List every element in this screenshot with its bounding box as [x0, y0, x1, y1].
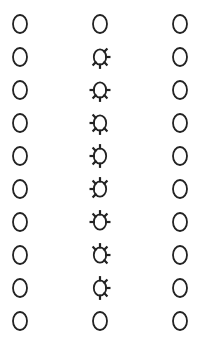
letter-o-icon — [8, 275, 32, 301]
letter-o-icon — [168, 242, 192, 268]
letter-o-icon — [8, 44, 32, 70]
letter-o-icon — [168, 110, 192, 136]
ticked-circle-icon — [88, 77, 112, 103]
letter-o-icon — [168, 143, 192, 169]
letter-o-icon — [168, 176, 192, 202]
letter-o-icon — [8, 110, 32, 136]
letter-o-icon — [8, 77, 32, 103]
letter-o-icon — [8, 209, 32, 235]
ticked-circle-icon — [88, 209, 112, 235]
letter-o-icon — [168, 77, 192, 103]
letter-o-icon — [168, 275, 192, 301]
letter-o-icon — [168, 11, 192, 37]
ticked-circle-icon — [88, 110, 112, 136]
letter-o-icon — [168, 209, 192, 235]
ticked-circle-icon — [88, 44, 112, 70]
ticked-circle-icon — [88, 242, 112, 268]
ticked-circle-icon — [88, 275, 112, 301]
ticked-circle-icon — [88, 176, 112, 202]
letter-o-icon — [8, 176, 32, 202]
letter-o-icon — [8, 143, 32, 169]
letter-o-icon — [168, 308, 192, 334]
letter-o-icon — [8, 242, 32, 268]
letter-o-icon — [8, 308, 32, 334]
symbol-grid — [0, 0, 201, 350]
letter-o-icon — [168, 44, 192, 70]
ticked-circle-icon — [88, 143, 112, 169]
letter-o-icon — [8, 11, 32, 37]
letter-o-icon — [88, 308, 112, 334]
letter-o-icon — [88, 11, 112, 37]
